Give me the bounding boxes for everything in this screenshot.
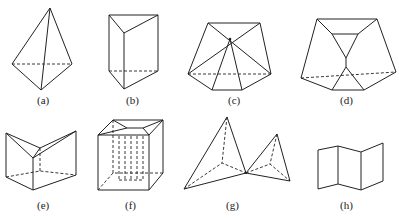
figure-b-prism — [109, 15, 158, 89]
label-d: (d) — [340, 94, 353, 107]
figure-c-polyhedron — [188, 23, 271, 90]
apex-dot — [229, 38, 232, 41]
figure-canvas: (a) (b) (c) (d) — [0, 0, 399, 218]
label-g: (g) — [226, 199, 239, 212]
label-a: (a) — [37, 94, 50, 107]
label-c: (c) — [228, 94, 241, 107]
figure-h-folded-strip — [318, 143, 383, 190]
figure-e-folded-prism — [6, 131, 76, 190]
label-h: (h) — [340, 199, 353, 212]
label-e: (e) — [37, 199, 50, 212]
figure-f-cube — [98, 120, 163, 190]
figure-g-tetrahedra — [184, 117, 290, 189]
label-f: (f) — [125, 199, 136, 212]
figure-a-tetrahedron — [12, 8, 72, 90]
figure-d-polyhedron — [301, 19, 396, 90]
label-b: (b) — [126, 94, 139, 107]
